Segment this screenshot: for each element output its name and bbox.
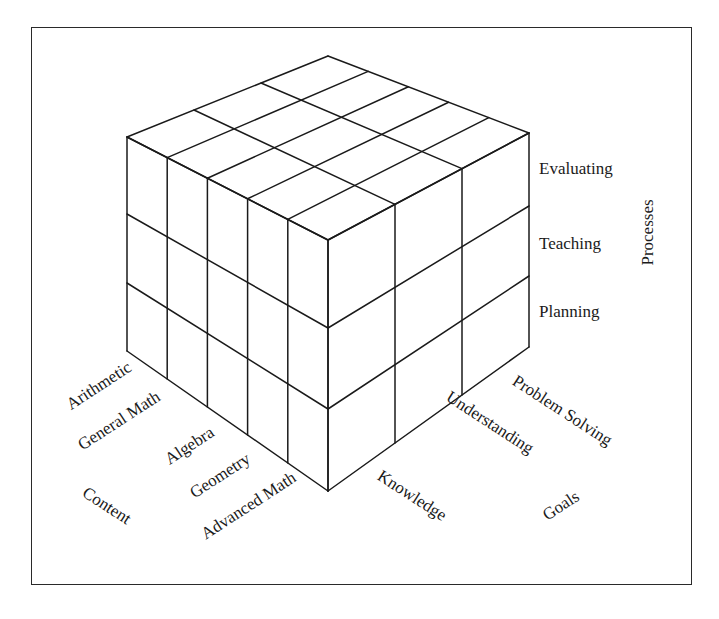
right-face-row-line — [328, 276, 529, 409]
cube-grid — [0, 0, 719, 619]
processes-label-planning: Planning — [539, 303, 599, 320]
top-grid-line — [328, 56, 529, 133]
left-face-row-line — [127, 283, 328, 409]
processes-axis-title: Processes — [639, 199, 656, 265]
left-face-row-line — [127, 214, 328, 328]
left-face-row-line — [127, 137, 328, 240]
top-grid-line — [127, 56, 328, 137]
processes-label-evaluating: Evaluating — [539, 160, 613, 177]
processes-label-teaching: Teaching — [539, 235, 601, 252]
top-grid-line — [194, 110, 395, 204]
